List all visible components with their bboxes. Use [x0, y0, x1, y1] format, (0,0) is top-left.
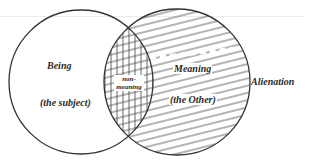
alienation-label: Alienation — [251, 76, 294, 87]
intersection-label: non- meaning — [114, 75, 144, 91]
meaning-title: Meaning — [173, 63, 212, 74]
being-subtitle: (the subject) — [40, 97, 91, 108]
intersection-label-line1: non- — [115, 75, 143, 83]
being-title: Being — [47, 60, 71, 71]
meaning-subtitle: (the Other) — [169, 94, 217, 105]
intersection-label-line2: meaning — [115, 83, 143, 91]
